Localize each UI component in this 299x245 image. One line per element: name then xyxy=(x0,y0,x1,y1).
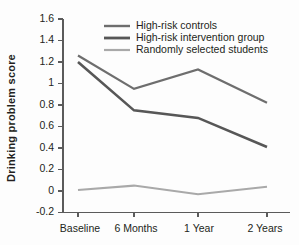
y-tick-label: 1.4 xyxy=(39,33,54,45)
y-tick-label: -0.2 xyxy=(36,205,54,217)
y-tick-marks xyxy=(58,19,63,213)
y-tick-labels: 1.6 1.4 1.2 1 0.8 0.6 0.4 0.2 0 -0.2 xyxy=(36,12,54,218)
x-tick-label: 1 Year xyxy=(184,222,214,234)
legend-label-high-risk-controls: High-risk controls xyxy=(136,19,217,31)
x-tick-label: 6 Months xyxy=(114,222,157,234)
x-tick-label: 2 Years xyxy=(247,222,282,234)
chart-figure: Drinking problem score 1.6 1.4 1.2 1 0.8… xyxy=(0,0,299,245)
series-group xyxy=(78,56,267,195)
y-tick-label: 0.4 xyxy=(39,141,54,153)
line-chart: Drinking problem score 1.6 1.4 1.2 1 0.8… xyxy=(0,0,299,245)
series-line-high-risk-intervention-group xyxy=(78,62,267,147)
y-tick-label: 0 xyxy=(48,184,54,196)
x-tick-labels: Baseline 6 Months 1 Year 2 Years xyxy=(60,222,283,234)
x-tick-marks xyxy=(78,213,267,218)
chart-legend: High-risk controls High-risk interventio… xyxy=(104,19,268,55)
y-tick-label: 0.8 xyxy=(39,98,54,110)
legend-label-randomly-selected-students: Randomly selected students xyxy=(136,43,268,55)
y-tick-label: 0.2 xyxy=(39,162,54,174)
x-tick-label: Baseline xyxy=(60,222,100,234)
legend-label-high-risk-intervention-group: High-risk intervention group xyxy=(136,31,265,43)
y-axis-label: Drinking problem score xyxy=(5,54,17,182)
series-line-high-risk-controls xyxy=(78,56,267,103)
y-tick-label: 1.6 xyxy=(39,12,54,24)
series-line-randomly-selected-students xyxy=(78,186,267,195)
y-tick-label: 1 xyxy=(48,76,54,88)
y-tick-label: 0.6 xyxy=(39,119,54,131)
y-tick-label: 1.2 xyxy=(39,55,54,67)
